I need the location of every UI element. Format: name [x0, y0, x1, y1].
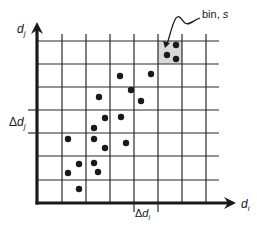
data-point: [164, 52, 170, 58]
callout-curve: [167, 17, 200, 44]
data-point: [91, 136, 97, 142]
data-point: [65, 136, 71, 142]
data-point: [123, 140, 129, 146]
data-point: [65, 170, 71, 176]
data-point: [138, 98, 144, 104]
data-point: [102, 115, 108, 121]
data-point: [173, 56, 179, 62]
data-point: [148, 71, 154, 77]
data-point: [76, 186, 82, 192]
y-axis-label: dj: [17, 22, 26, 38]
data-point: [96, 94, 102, 100]
grid-lines: [37, 34, 219, 203]
data-point: [128, 87, 134, 93]
scatter-grid-diagram: dj di Δdj Δdi bin, s: [0, 0, 257, 226]
data-point: [117, 73, 123, 79]
bin-callout-label: bin, s: [202, 8, 229, 20]
delta-y-label: Δdj: [9, 115, 26, 131]
data-point: [102, 145, 108, 151]
data-point: [118, 114, 124, 120]
delta-x-label: Δdi: [135, 207, 150, 221]
data-point: [173, 42, 179, 48]
data-point: [91, 125, 97, 131]
data-point: [76, 161, 82, 167]
x-axis-label: di: [241, 197, 250, 213]
data-point: [91, 160, 97, 166]
data-point: [95, 169, 101, 175]
